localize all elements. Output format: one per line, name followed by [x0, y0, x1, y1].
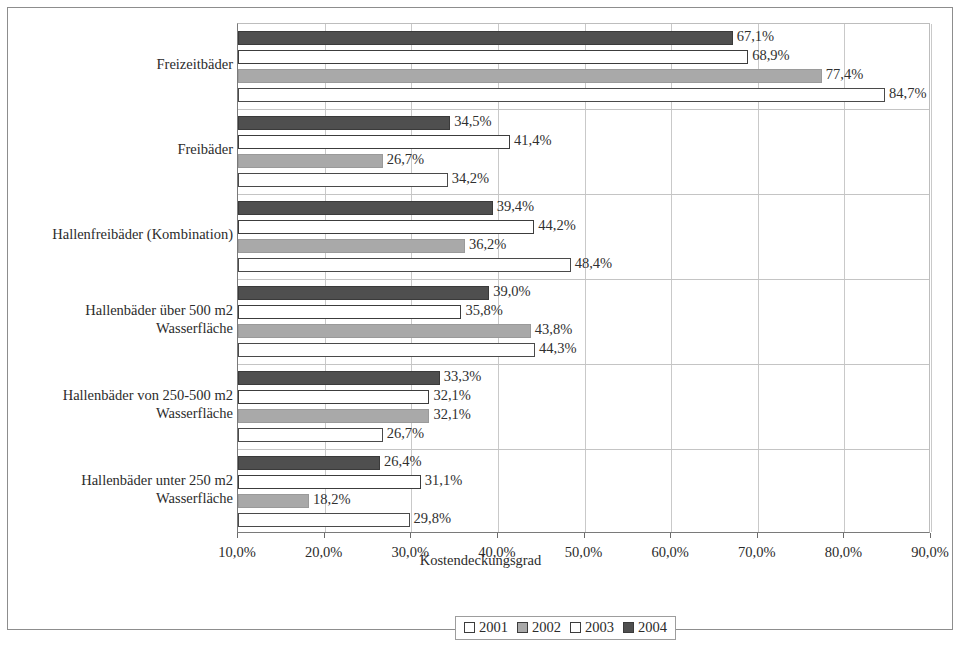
bar-2003-5 — [238, 390, 429, 404]
bar-2004-3 — [238, 201, 493, 215]
bar-value-label: 84,7% — [889, 86, 926, 101]
legend-swatch-icon — [464, 622, 475, 633]
category-separator — [238, 364, 929, 365]
bar-2003-4 — [238, 305, 461, 319]
bar-2001-6 — [238, 513, 410, 527]
bar-value-label: 32,1% — [433, 388, 470, 403]
bar-value-label: 34,5% — [454, 114, 491, 129]
bar-2003-3 — [238, 220, 534, 234]
x-tick-mark — [497, 533, 498, 538]
bar-2004-2 — [238, 116, 450, 130]
category-label-line: Freibäder — [0, 140, 233, 158]
legend-swatch-icon — [570, 622, 581, 633]
bar-2002-6 — [238, 494, 309, 508]
bar-2002-1 — [238, 69, 822, 83]
bar-value-label: 32,1% — [433, 407, 470, 422]
bar-2003-1 — [238, 50, 748, 64]
bar-2001-1 — [238, 88, 885, 102]
bar-chart: FreizeitbäderFreibäderHallenfreibäder (K… — [0, 0, 961, 657]
legend-item-2001[interactable]: 2001 — [464, 620, 508, 635]
bar-value-label: 33,3% — [444, 369, 481, 384]
category-label-line: Hallenbäder unter 250 m2 — [0, 471, 233, 489]
x-tick-mark — [237, 533, 238, 538]
category-label-line: Wasserfläche — [0, 319, 233, 337]
bar-value-label: 43,8% — [535, 322, 572, 337]
bar-value-label: 31,1% — [425, 473, 462, 488]
bar-2004-5 — [238, 371, 440, 385]
category-label-2: Freibäder — [0, 140, 233, 158]
legend-item-2004[interactable]: 2004 — [623, 620, 667, 635]
chart-legend: 2001200220032004 — [455, 616, 676, 640]
x-tick-mark — [843, 533, 844, 538]
bar-value-label: 39,4% — [497, 199, 534, 214]
bar-value-label: 39,0% — [493, 284, 530, 299]
bar-value-label: 34,2% — [452, 171, 489, 186]
bar-2002-4 — [238, 324, 531, 338]
legend-item-2003[interactable]: 2003 — [570, 620, 614, 635]
legend-label: 2003 — [585, 620, 614, 635]
plot-area — [237, 23, 930, 533]
category-label-3: Hallenfreibäder (Kombination) — [0, 225, 233, 243]
category-separator — [238, 194, 929, 195]
category-label-line: Hallenfreibäder (Kombination) — [0, 225, 233, 243]
bar-2004-6 — [238, 456, 380, 470]
x-tick-mark — [757, 533, 758, 538]
legend-label: 2001 — [479, 620, 508, 635]
x-tick-mark — [930, 533, 931, 538]
category-label-line: Wasserfläche — [0, 489, 233, 507]
category-label-5: Hallenbäder von 250-500 m2Wasserfläche — [0, 386, 233, 422]
bar-2003-2 — [238, 135, 510, 149]
legend-label: 2004 — [638, 620, 667, 635]
bar-2004-1 — [238, 31, 733, 45]
bar-value-label: 44,2% — [538, 218, 575, 233]
x-tick-mark — [670, 533, 671, 538]
bar-2002-5 — [238, 409, 429, 423]
category-label-6: Hallenbäder unter 250 m2Wasserfläche — [0, 471, 233, 507]
bar-value-label: 44,3% — [539, 341, 576, 356]
bar-value-label: 77,4% — [826, 67, 863, 82]
category-label-line: Hallenbäder von 250-500 m2 — [0, 386, 233, 404]
bar-value-label: 68,9% — [752, 48, 789, 63]
category-label-line: Wasserfläche — [0, 404, 233, 422]
bar-value-label: 67,1% — [737, 29, 774, 44]
category-separator — [238, 109, 929, 110]
bar-value-label: 26,4% — [384, 454, 421, 469]
bar-value-label: 29,8% — [414, 511, 451, 526]
bar-2003-6 — [238, 475, 421, 489]
legend-swatch-icon — [517, 622, 528, 633]
bar-2001-2 — [238, 173, 448, 187]
category-separator — [238, 279, 929, 280]
bar-value-label: 18,2% — [313, 492, 350, 507]
bar-2002-2 — [238, 154, 383, 168]
bar-value-label: 41,4% — [514, 133, 551, 148]
legend-item-2002[interactable]: 2002 — [517, 620, 561, 635]
gridline — [931, 24, 932, 532]
category-label-1: Freizeitbäder — [0, 55, 233, 73]
legend-swatch-icon — [623, 622, 634, 633]
bar-value-label: 26,7% — [387, 152, 424, 167]
bar-value-label: 26,7% — [387, 426, 424, 441]
legend-label: 2002 — [532, 620, 561, 635]
bar-2001-5 — [238, 428, 383, 442]
x-tick-mark — [410, 533, 411, 538]
bar-2002-3 — [238, 239, 465, 253]
bar-value-label: 48,4% — [575, 256, 612, 271]
category-label-line: Freizeitbäder — [0, 55, 233, 73]
category-label-4: Hallenbäder über 500 m2Wasserfläche — [0, 301, 233, 337]
category-separator — [238, 449, 929, 450]
bar-2001-4 — [238, 343, 535, 357]
bar-value-label: 35,8% — [465, 303, 502, 318]
bar-2001-3 — [238, 258, 571, 272]
category-label-line: Hallenbäder über 500 m2 — [0, 301, 233, 319]
bar-2004-4 — [238, 286, 489, 300]
x-tick-mark — [584, 533, 585, 538]
x-tick-mark — [324, 533, 325, 538]
x-axis-title: Kostendeckungsgrad — [0, 552, 961, 569]
bar-value-label: 36,2% — [469, 237, 506, 252]
